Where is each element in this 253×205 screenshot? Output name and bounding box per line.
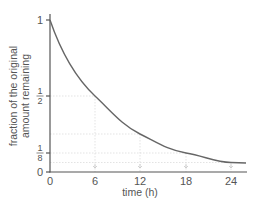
x-tick-label-18: 18 (180, 175, 192, 187)
horizontal-guides (50, 96, 231, 163)
y-eighth-numerator: 1 (37, 143, 42, 153)
y-tick-label-half: 1 2 (37, 86, 44, 106)
y-half-numerator: 1 (37, 86, 42, 96)
x-tick-label-24: 24 (225, 175, 237, 187)
y-half-denominator: 2 (37, 96, 42, 106)
decay-curve (50, 20, 246, 163)
decay-chart: 1 1 2 1 8 0 0 6 12 18 24 time (h) fracti… (0, 0, 253, 205)
x-tick-label-0: 0 (47, 175, 53, 187)
y-eighth-denominator: 8 (37, 153, 42, 163)
y-tick-label-1: 1 (37, 14, 43, 26)
y-tick-label-0: 0 (37, 166, 43, 178)
y-axis-title-line1: fraction of the original (7, 46, 19, 146)
x-point-markers (93, 164, 233, 168)
x-tick-label-6: 6 (92, 175, 98, 187)
x-axis-title: time (h) (122, 186, 158, 198)
axes (46, 14, 247, 173)
y-axis-title: fraction of the original amount remainin… (7, 46, 31, 146)
y-tick-label-eighth: 1 8 (37, 143, 44, 163)
y-axis-title-line2: amount remaining (19, 54, 31, 138)
vertical-guides (95, 96, 231, 172)
